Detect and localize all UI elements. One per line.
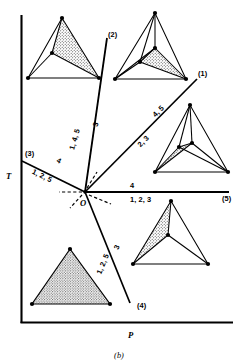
vertex-left-tr [113,77,117,81]
vertex-apex-br [169,199,173,203]
branch-label-3: (3) [25,149,35,158]
vertex-interior2-mr [177,145,181,149]
vertex-apex-tl [60,16,64,20]
vertex-apex-mr [188,103,192,107]
origin-point [83,190,86,193]
branch-label-4: (4) [137,301,147,310]
origin-label: O [80,198,86,208]
vertex-apex-tr [153,11,157,15]
vertex-right-bl [108,302,112,306]
vertex-apex-bl [68,247,72,251]
x-axis-label: P [128,330,134,340]
vertex-right-tl [97,76,101,80]
branch-label-5: (5) [222,194,232,203]
vertex-left-br [131,262,135,266]
vertex-right-tr [184,77,188,81]
figure-caption: (b) [114,351,124,360]
vertex-left-tl [26,76,30,80]
vertex-interior-tl [50,51,54,55]
branch-label-1: (1) [198,69,208,78]
branch-label-2: (2) [108,30,118,39]
vertex-interior-br [166,233,170,237]
vertex-interior-tr [138,60,142,64]
diagram-canvas: (1) (2) (3) (4) (5) 1, 4, 5 3 4, 5 2, 3 … [0,0,240,364]
phase-diagram-figure: (1) (2) (3) (4) (5) 1, 4, 5 3 4, 5 2, 3 … [0,0,240,364]
vertex-right-mr [226,170,230,174]
phase-label-line5-lower: 1, 2, 3 [130,195,151,204]
background [0,0,240,364]
vertex-left-mr [153,170,157,174]
vertex-interior2-tr [153,46,157,50]
vertex-left-bl [30,302,34,306]
vertex-interior-mr [190,141,194,145]
vertex-right-br [206,262,210,266]
y-axis-label: T [6,171,12,181]
